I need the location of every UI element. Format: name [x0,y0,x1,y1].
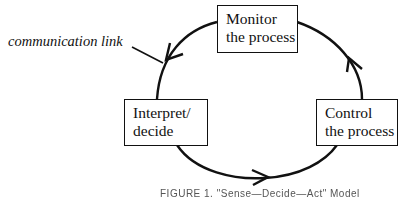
annotation-leader-line [132,47,163,63]
communication-link-label: communication link [8,33,123,50]
node-monitor-line-2: the process [226,28,297,46]
node-monitor-line-1: Monitor [226,10,297,28]
figure-caption: FIGURE 1. "Sense—Decide—Act" Model [160,188,360,197]
node-control-line-1: Control [325,104,397,122]
node-monitor: Monitor the process [217,5,298,53]
node-control-line-2: the process [325,122,397,140]
node-control: Control the process [316,99,398,146]
node-interpret-line-1: Interpret/ [133,104,207,122]
node-interpret: Interpret/ decide [124,99,208,146]
node-interpret-line-2: decide [133,122,207,140]
